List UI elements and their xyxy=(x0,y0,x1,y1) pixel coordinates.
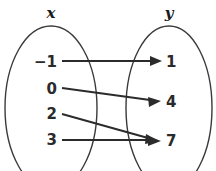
range-value-0: 1 xyxy=(166,53,176,71)
domain-value-1: 0 xyxy=(47,80,57,98)
range-value-1: 4 xyxy=(166,93,176,111)
domain-header-label: x xyxy=(46,4,57,22)
domain-oval xyxy=(5,26,97,171)
domain-value-2: 2 xyxy=(47,105,57,123)
arrow-0-to-4 xyxy=(62,88,161,107)
range-header-label: y xyxy=(164,4,175,22)
domain-value-3: 3 xyxy=(47,131,57,149)
mapping-diagram-canvas: x y −1 0 2 3 1 4 7 xyxy=(0,0,216,171)
range-value-2: 7 xyxy=(166,132,176,150)
domain-value-0: −1 xyxy=(34,53,57,71)
mapping-diagram: x y −1 0 2 3 1 4 7 xyxy=(0,0,216,171)
arrow-neg1-to-1 xyxy=(62,56,162,66)
